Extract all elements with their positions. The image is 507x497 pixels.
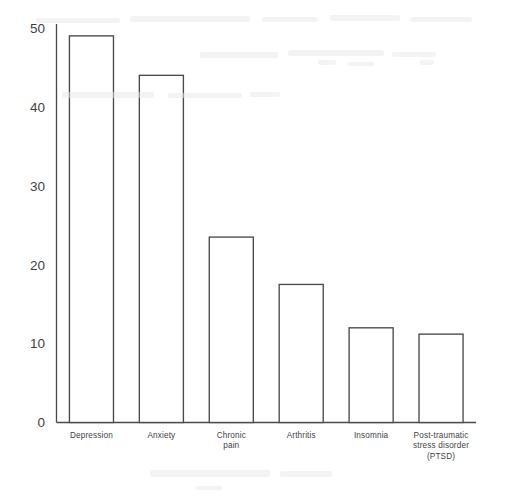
x-tick-label: pain: [223, 441, 239, 450]
y-tick-label: 40: [30, 100, 45, 115]
x-tick-label: (PTSD): [427, 452, 455, 461]
y-tick-label: 10: [30, 336, 45, 351]
x-tick-label: Depression: [70, 431, 113, 440]
x-tick-labels: DepressionAnxietyChronicpainArthritisIns…: [70, 431, 469, 461]
x-tick-label: Insomnia: [354, 431, 389, 440]
bar-chart: 01020304050 DepressionAnxietyChronicpain…: [0, 0, 507, 497]
chart-canvas: 01020304050 DepressionAnxietyChronicpain…: [0, 0, 507, 497]
y-tick-label: 20: [30, 258, 45, 273]
bar: [419, 334, 463, 422]
y-tick-label: 50: [30, 21, 45, 36]
x-tick-label: stress disorder: [413, 441, 469, 450]
bar: [69, 36, 113, 423]
y-tick-labels: 01020304050: [30, 21, 45, 431]
x-tick-label: Post-traumatic: [414, 431, 469, 440]
bar: [139, 75, 183, 422]
x-tick-label: Arthritis: [287, 431, 316, 440]
y-tick-label: 0: [37, 415, 45, 430]
bar: [209, 237, 253, 422]
bar: [279, 284, 323, 422]
bar: [349, 328, 393, 423]
x-tick-label: Anxiety: [147, 431, 176, 440]
bars-group: [69, 36, 463, 423]
y-tick-label: 30: [30, 179, 45, 194]
x-tick-label: Chronic: [217, 431, 246, 440]
